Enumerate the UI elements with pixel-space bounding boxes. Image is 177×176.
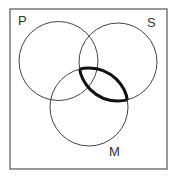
label-p: P: [18, 13, 27, 28]
label-s: S: [147, 15, 156, 30]
label-m: M: [109, 144, 120, 159]
highlight-s-m-intersection: [50, 23, 157, 146]
circle-p: [19, 22, 98, 101]
venn-diagram: P S M: [0, 0, 177, 176]
